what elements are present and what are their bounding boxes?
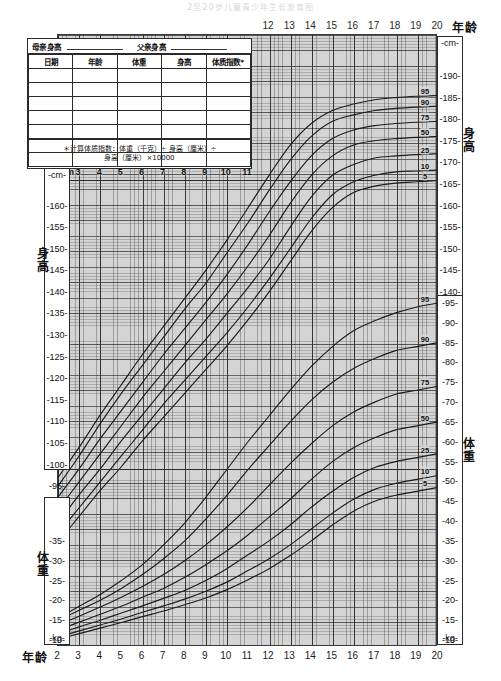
bmi-note-line2: 身高（厘米）×10000 [104, 154, 174, 163]
table-cell[interactable] [162, 83, 206, 97]
weight-right-axis-name: 体重 [462, 438, 476, 463]
weight-percentile-label-50: 50 [420, 413, 429, 422]
weight-right-tick-25: -25- [442, 576, 458, 586]
weight-right-tick-65: -65- [442, 417, 458, 427]
table-cell[interactable] [29, 69, 73, 83]
table-cell[interactable] [73, 97, 117, 111]
stature-percentile-50 [58, 136, 438, 509]
stature-right-tick-145: -145- [439, 265, 460, 275]
bottom-age-tick-14: 14 [305, 650, 316, 661]
top-age-tick-16: 16 [347, 20, 358, 31]
bottom-age-tick-11: 11 [242, 650, 252, 661]
table-row[interactable] [29, 83, 251, 97]
table-cell[interactable] [117, 83, 161, 97]
mother-height-input[interactable] [67, 42, 123, 50]
stature-right-tick-180: -180- [439, 114, 460, 124]
weight-right-tick-50: -50- [442, 476, 458, 486]
stature-percentile-label-95: 95 [420, 87, 429, 96]
stature-percentile-5 [58, 180, 438, 542]
bmi-note-line1: ＊计算体质指数：体重（千克）÷ 身高（厘米）÷ [63, 145, 217, 154]
table-cell[interactable] [73, 125, 117, 139]
father-height-label: 父亲身高 [137, 41, 167, 52]
weight-right-tick-90: -90- [442, 318, 458, 328]
weight-percentile-5 [58, 487, 438, 639]
weight-right-tick-35: -35- [442, 536, 458, 546]
table-cell[interactable] [162, 97, 206, 111]
weight-right-tick-20: -20- [442, 595, 458, 605]
table-cell[interactable] [73, 69, 117, 83]
weight-right-tick-15: -15- [442, 615, 458, 625]
top-age-tick-17: 17 [368, 20, 379, 31]
bottom-age-axis-label: 年龄 [22, 648, 48, 665]
weight-right-unit: -kg- [442, 633, 458, 643]
table-cell[interactable] [162, 125, 206, 139]
bottom-age-tick-6: 6 [139, 650, 145, 661]
data-entry-table[interactable]: 母亲身高 父亲身高 日期年龄体重身高体质指数* ＊计算体质指数：体重（千克）÷ … [27, 38, 252, 169]
stature-right-tick-190: -190- [439, 71, 460, 81]
table-col-header-1: 日期 [29, 55, 73, 69]
top-age-axis-label: 年龄 [452, 18, 478, 35]
stature-percentile-10 [58, 170, 438, 534]
stature-percentile-25 [58, 154, 438, 523]
stature-percentile-label-75: 75 [420, 113, 429, 122]
top-age-tick-18: 18 [389, 20, 400, 31]
table-cell[interactable] [29, 111, 73, 125]
table-cell[interactable] [29, 97, 73, 111]
stature-left-tick-140: -140- [46, 287, 67, 297]
stature-left-tick-125: -125- [46, 352, 67, 362]
stature-percentile-label-50: 50 [420, 128, 429, 137]
table-header-row: 日期年龄体重身高体质指数* [29, 55, 251, 69]
bmi-formula-note: ＊计算体质指数：体重（千克）÷ 身高（厘米）÷ 身高（厘米）×10000 [28, 139, 251, 168]
bottom-age-axis: 234567891011121314151617181920 [57, 650, 437, 664]
stature-left-tick-160: -160- [46, 201, 67, 211]
weight-left-tick-20: -20- [49, 595, 65, 605]
stature-left-axis-name: 身高 [36, 248, 50, 273]
table-row[interactable] [29, 69, 251, 83]
weight-left-tick-15: -15- [49, 615, 65, 625]
weight-right-tick-70: -70- [442, 397, 458, 407]
table-cell[interactable] [117, 125, 161, 139]
mother-height-field[interactable]: 母亲身高 [32, 41, 123, 52]
page-title: 2至20岁儿童青少年生长发育图 [0, 1, 501, 12]
table-cell[interactable] [206, 83, 250, 97]
stature-percentile-label-25: 25 [420, 145, 429, 154]
table-cell[interactable] [162, 69, 206, 83]
weight-left-axis-name: 体重 [36, 552, 50, 577]
table-cell[interactable] [162, 111, 206, 125]
father-height-field[interactable]: 父亲身高 [137, 41, 228, 52]
weight-right-rail: -95--90--85--80--75--70--65--60--55--50-… [437, 295, 463, 645]
bottom-age-tick-19: 19 [410, 650, 421, 661]
weight-percentile-label-75: 75 [420, 378, 429, 387]
growth-chart-page: 2至20岁儿童青少年生长发育图 121314151617181920 年龄 cm… [0, 0, 501, 681]
table-row[interactable] [29, 111, 251, 125]
table-cell[interactable] [117, 97, 161, 111]
bottom-age-tick-18: 18 [389, 650, 400, 661]
weight-percentile-75 [58, 386, 438, 625]
table-row[interactable] [29, 97, 251, 111]
weight-percentile-label-10: 10 [420, 467, 429, 476]
table-cell[interactable] [117, 69, 161, 83]
table-cell[interactable] [73, 83, 117, 97]
stature-right-tick-165: -165- [439, 179, 460, 189]
table-cell[interactable] [206, 69, 250, 83]
stature-left-tick-105: -105- [46, 438, 67, 448]
table-cell[interactable] [73, 111, 117, 125]
weight-right-tick-45: -45- [442, 496, 458, 506]
stature-right-tick-175: -175- [439, 136, 460, 146]
table-cell[interactable] [29, 83, 73, 97]
table-cell[interactable] [206, 125, 250, 139]
bottom-age-tick-5: 5 [118, 650, 124, 661]
stature-right-tick-150: -150- [439, 244, 460, 254]
table-row[interactable] [29, 125, 251, 139]
table-cell[interactable] [117, 111, 161, 125]
table-cell[interactable] [206, 111, 250, 125]
stature-percentile-label-90: 90 [420, 98, 429, 107]
parent-height-row: 母亲身高 父亲身高 [28, 39, 251, 54]
table-cell[interactable] [29, 125, 73, 139]
table-col-header-2: 年龄 [73, 55, 117, 69]
father-height-input[interactable] [171, 42, 227, 50]
table-cell[interactable] [206, 97, 250, 111]
weight-right-tick-30: -30- [442, 556, 458, 566]
weight-percentile-25 [58, 454, 438, 634]
bottom-age-tick-15: 15 [326, 650, 337, 661]
